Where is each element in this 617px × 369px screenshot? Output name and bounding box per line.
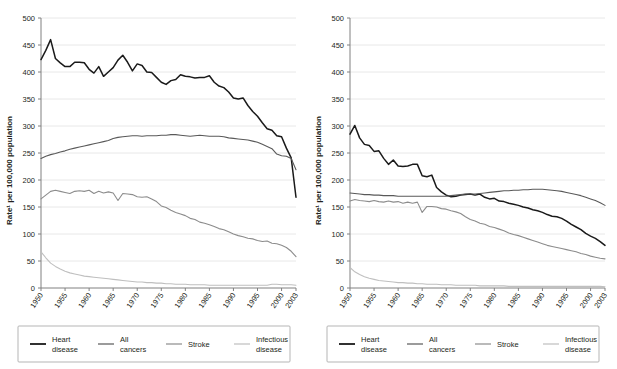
legend-label-infectious-disease: Infectious: [565, 335, 597, 344]
legend-label-all-cancers-line2: cancers: [429, 345, 456, 354]
series-line-heart-disease: [350, 125, 605, 245]
y-tick-label: 0: [31, 284, 35, 293]
x-tick-label: 1980: [482, 291, 499, 310]
x-tick-label: 1965: [409, 291, 426, 310]
y-tick-label: 450: [22, 41, 35, 50]
x-tick-label: 1995: [554, 291, 571, 310]
y-axis-title-left: Rate¹ per 100,000 population: [5, 116, 14, 225]
legend-label-stroke: Stroke: [188, 340, 210, 349]
y-tick-label: 350: [331, 95, 344, 104]
y-tick-label: 150: [331, 203, 344, 212]
y-axis-title-right: Rate¹ per 100,000 population: [314, 116, 323, 225]
legend-left: HeartdiseaseAllcancersStrokeInfectiousdi…: [18, 326, 290, 362]
x-tick-label: 2003: [592, 291, 609, 310]
series-line-all-cancers: [41, 135, 296, 170]
legend-label-heart-disease-line2: disease: [361, 345, 387, 354]
y-axis-title-text-right: Rate¹ per 100,000 population: [314, 116, 323, 225]
x-tick-label: 1990: [530, 291, 547, 310]
y-tick-label: 200: [22, 176, 35, 185]
series-line-infectious-disease: [41, 252, 296, 285]
legend-label-heart-disease: Heart: [52, 335, 71, 344]
legend-label-infectious-disease-line2: disease: [565, 345, 591, 354]
figure-container: 050100150200250300350400450500 195019551…: [0, 0, 617, 369]
legend-right: HeartdiseaseAllcancersStrokeInfectiousdi…: [327, 326, 599, 362]
y-tick-label: 150: [22, 203, 35, 212]
y-tick-label: 100: [22, 230, 35, 239]
series-group-left: [41, 40, 296, 286]
y-tick-label: 50: [336, 257, 344, 266]
y-tick-label: 350: [22, 95, 35, 104]
y-axis-left: 050100150200250300350400450500: [22, 14, 41, 293]
x-tick-label: 2000: [578, 291, 595, 310]
x-tick-label: 1955: [361, 291, 378, 310]
chart-svg-right: 050100150200250300350400450500 195019551…: [309, 0, 617, 369]
y-tick-label: 400: [331, 68, 344, 77]
x-tick-label: 1975: [148, 291, 165, 310]
series-line-infectious-disease: [350, 267, 605, 286]
x-tick-label: 1990: [221, 291, 238, 310]
y-axis-title-text-left: Rate¹ per 100,000 population: [5, 116, 14, 225]
series-line-heart-disease: [41, 40, 296, 198]
y-tick-label: 300: [22, 122, 35, 131]
x-tick-label: 1985: [197, 291, 214, 310]
y-tick-label: 450: [331, 41, 344, 50]
x-tick-label: 1970: [124, 291, 141, 310]
legend-label-all-cancers: All: [429, 335, 438, 344]
legend-label-all-cancers-line2: cancers: [120, 345, 147, 354]
x-tick-label: 1985: [506, 291, 523, 310]
series-group-right: [350, 125, 605, 286]
series-line-stroke: [41, 190, 296, 256]
x-tick-label: 1995: [245, 291, 262, 310]
y-tick-label: 250: [22, 149, 35, 158]
legend-label-stroke: Stroke: [497, 340, 519, 349]
y-tick-label: 500: [22, 14, 35, 23]
x-tick-label: 2003: [283, 291, 300, 310]
gridlines-right: [350, 18, 605, 261]
x-tick-label: 1950: [337, 291, 354, 310]
x-tick-label: 1960: [385, 291, 402, 310]
y-tick-label: 200: [331, 176, 344, 185]
legend-label-infectious-disease: Infectious: [256, 335, 288, 344]
legend-label-infectious-disease-line2: disease: [256, 345, 282, 354]
y-tick-label: 100: [331, 230, 344, 239]
x-tick-label: 1970: [433, 291, 450, 310]
x-tick-label: 1960: [76, 291, 93, 310]
chart-panel-right: 050100150200250300350400450500 195019551…: [309, 0, 617, 369]
x-tick-label: 1965: [100, 291, 117, 310]
x-tick-label: 2000: [269, 291, 286, 310]
series-line-stroke: [350, 199, 605, 258]
x-axis-left: 1950195519601965197019751980198519901995…: [28, 288, 300, 310]
legend-label-heart-disease: Heart: [361, 335, 380, 344]
y-tick-label: 0: [340, 284, 344, 293]
legend-label-all-cancers: All: [120, 335, 129, 344]
gridlines-left: [41, 18, 296, 261]
y-tick-label: 400: [22, 68, 35, 77]
x-tick-label: 1955: [52, 291, 69, 310]
y-tick-label: 300: [331, 122, 344, 131]
chart-svg-left: 050100150200250300350400450500 195019551…: [0, 0, 308, 369]
y-tick-label: 500: [331, 14, 344, 23]
x-tick-label: 1975: [457, 291, 474, 310]
y-tick-label: 50: [27, 257, 35, 266]
chart-panel-left: 050100150200250300350400450500 195019551…: [0, 0, 308, 369]
y-axis-right: 050100150200250300350400450500: [331, 14, 350, 293]
x-tick-label: 1980: [173, 291, 190, 310]
x-tick-label: 1950: [28, 291, 45, 310]
x-axis-right: 1950195519601965197019751980198519901995…: [337, 288, 609, 310]
y-tick-label: 250: [331, 149, 344, 158]
legend-label-heart-disease-line2: disease: [52, 345, 78, 354]
series-line-all-cancers: [350, 189, 605, 205]
